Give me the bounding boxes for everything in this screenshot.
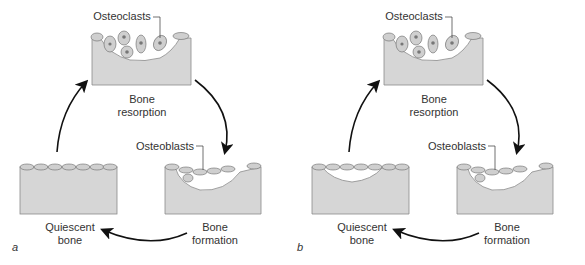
arrow-formation-to-quiescent <box>103 230 187 241</box>
osteoblasts-label: Osteoblasts <box>427 140 487 153</box>
resorption-label-line1: Bone <box>404 93 464 106</box>
arrow-resorption-to-formation <box>487 80 519 152</box>
quiescent-label-line2: bone <box>40 234 100 247</box>
panel-b: Osteoclasts Bone resorption Osteoblasts … <box>292 0 584 265</box>
arrow-quiescent-to-resorption <box>349 82 378 152</box>
resorption-label: Bone resorption <box>112 93 172 119</box>
panel-label-b: b <box>297 241 303 253</box>
formation-label: Bone formation <box>185 221 245 247</box>
osteoclasts-label: Osteoclasts <box>384 10 444 23</box>
quiescent-label-line1: Quiescent <box>40 221 100 234</box>
formation-label-line1: Bone <box>477 221 537 234</box>
panel-label-a: a <box>12 241 18 253</box>
arrow-formation-to-quiescent <box>395 230 479 241</box>
quiescent-label: Quiescent bone <box>40 221 100 247</box>
formation-label-line2: formation <box>477 234 537 247</box>
osteoblasts-label: Osteoblasts <box>135 140 195 153</box>
resorption-label-line1: Bone <box>112 93 172 106</box>
resorption-block <box>91 17 191 85</box>
quiescent-block <box>312 164 409 214</box>
quiescent-label-line2: bone <box>332 234 392 247</box>
formation-label-line2: formation <box>185 234 245 247</box>
resorption-label-line2: resorption <box>404 106 464 119</box>
arrow-quiescent-to-resorption <box>57 82 86 152</box>
quiescent-block <box>20 164 117 214</box>
formation-label: Bone formation <box>477 221 537 247</box>
formation-block <box>165 146 261 214</box>
formation-label-line1: Bone <box>185 221 245 234</box>
quiescent-label-line1: Quiescent <box>332 221 392 234</box>
resorption-label-line2: resorption <box>112 106 172 119</box>
arrow-resorption-to-formation <box>195 80 227 152</box>
resorption-label: Bone resorption <box>404 93 464 119</box>
quiescent-label: Quiescent bone <box>332 221 392 247</box>
resorption-block <box>383 17 483 85</box>
osteoclasts-label: Osteoclasts <box>92 10 152 23</box>
formation-block <box>457 146 553 214</box>
panel-a: Osteoclasts Bone resorption Osteoblasts … <box>0 0 292 265</box>
